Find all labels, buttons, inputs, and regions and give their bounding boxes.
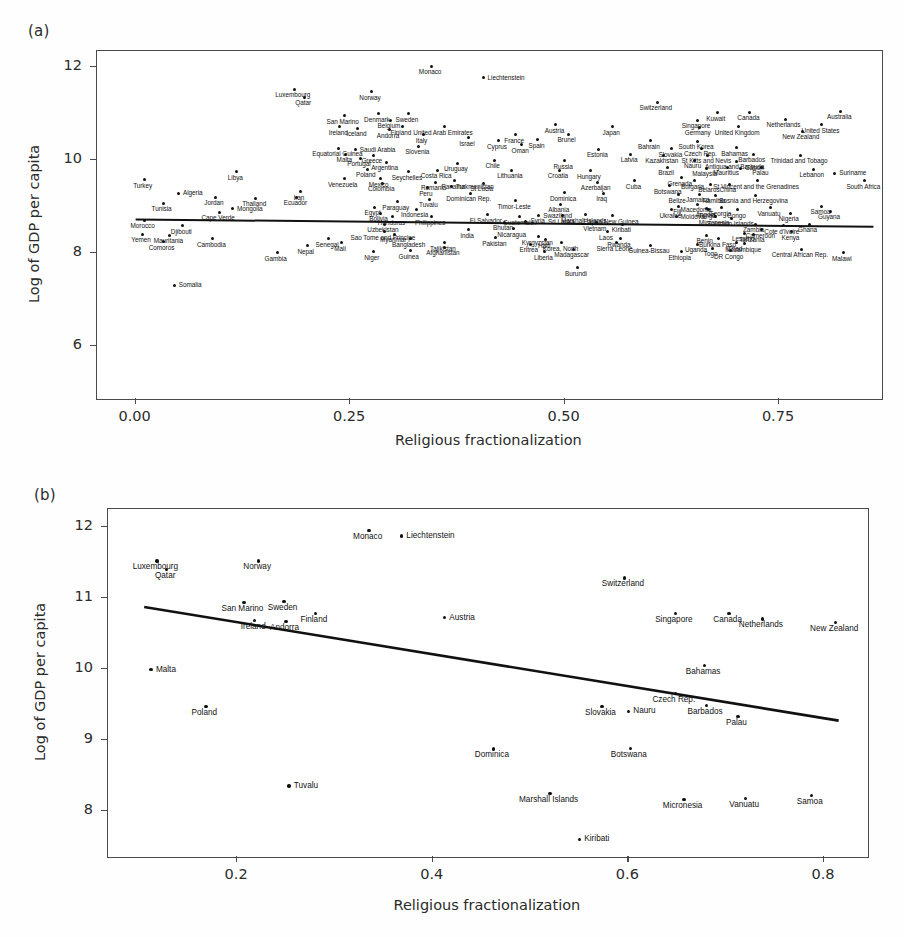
data-point-label: Japan xyxy=(603,129,620,135)
data-point-label: New Zealand xyxy=(810,625,858,633)
data-point-label: Spain xyxy=(528,142,544,148)
y-tick-mark xyxy=(101,597,107,598)
data-point-label: India xyxy=(460,232,474,238)
x-tick-label: 0.4 xyxy=(402,866,462,882)
x-tick-label: 0.2 xyxy=(206,866,266,882)
data-point-label: Iceland xyxy=(346,131,366,137)
data-point-label: Algeria xyxy=(183,190,203,196)
data-point-label: Bangladesh xyxy=(392,242,425,248)
panel-a-x-axis-title: Religious fractionalization xyxy=(395,432,582,448)
data-point-label: Austria xyxy=(449,614,474,622)
data-point-label: Nicaragua xyxy=(497,232,526,238)
panel-b-plot-area: MonacoLiechtensteinLuxembourgQatarNorway… xyxy=(107,508,869,858)
data-point xyxy=(287,784,290,787)
data-point-label: Ghana xyxy=(798,227,817,233)
data-point-label: Micronesia xyxy=(663,802,703,810)
data-point-label: Brunel xyxy=(557,137,575,143)
data-point-label: Colombia xyxy=(368,186,395,192)
data-point-label: Austria xyxy=(545,128,565,134)
data-point-label: Slovakia xyxy=(585,709,616,717)
data-point-label: Norway xyxy=(243,563,271,571)
data-point-label: Botswana xyxy=(611,751,647,759)
y-tick-label: 9 xyxy=(45,730,93,746)
data-point-label: Norway xyxy=(359,95,380,101)
data-point-label: Syria xyxy=(530,218,544,224)
data-point-label: Turkmenistan xyxy=(456,184,494,190)
data-point-label: Andorra xyxy=(270,624,299,632)
data-point-label: Australia xyxy=(827,114,851,120)
x-tick-mark xyxy=(432,856,433,862)
data-point-label: Ireland xyxy=(241,623,266,631)
data-point xyxy=(578,838,581,841)
data-point-label: DR Congo xyxy=(714,253,743,259)
y-tick-label: 10 xyxy=(45,659,93,675)
data-point-label: Samoa xyxy=(797,798,823,806)
data-point-label: Belize xyxy=(669,198,686,204)
data-point-label: Comoros xyxy=(149,245,175,251)
data-point-label: Cyprus xyxy=(487,143,507,149)
data-point-label: Nauru xyxy=(684,163,701,169)
regression-fit-line xyxy=(97,51,882,399)
data-point-label: Andorra xyxy=(377,133,399,139)
data-point-label: Vanuatu xyxy=(729,801,759,809)
y-tick-mark xyxy=(90,345,96,346)
data-point-label: Suriname xyxy=(839,170,866,176)
data-point-label: Estonia xyxy=(587,152,608,158)
data-point-label: Ireland xyxy=(329,129,348,135)
data-point-label: Vietnam xyxy=(583,225,606,231)
data-point-label: Turkey xyxy=(133,182,152,188)
x-tick-mark xyxy=(236,856,237,862)
data-point-label: Costa Rica xyxy=(421,173,452,179)
data-point-label: Monaco xyxy=(353,533,382,541)
data-point-label: St Vincent and the Grenadines xyxy=(713,184,798,190)
data-point-label: Swaziland xyxy=(543,213,572,219)
data-point-label: Palau xyxy=(726,719,747,727)
data-point-label: New Zealand xyxy=(782,134,819,140)
x-tick-mark xyxy=(349,398,350,404)
data-point-label: Netherlands xyxy=(767,122,801,128)
data-point-label: Latvia xyxy=(621,157,638,163)
data-point-label: San Marino xyxy=(326,119,358,125)
data-point-label: Kenya xyxy=(781,235,799,241)
data-point-label: Nepal xyxy=(297,249,313,255)
data-point-label: Cuba xyxy=(626,184,641,190)
data-point-label: Kazakhstan xyxy=(645,158,678,164)
y-tick-label: 12 xyxy=(45,517,93,533)
x-tick-mark xyxy=(778,398,779,404)
data-point-label: Kiribati xyxy=(612,227,631,233)
data-point-label: Guyana xyxy=(818,214,840,220)
data-point-label: Liechtenstein xyxy=(406,532,454,540)
panel-a-plot-area: MonacoLiechtensteinLuxembourgQatarNorway… xyxy=(96,50,883,400)
panel-a-y-axis-title: Log of GDP per capita xyxy=(26,145,42,303)
data-point-label: Finland xyxy=(300,616,327,624)
data-point-label: Qatar xyxy=(295,100,311,106)
data-point-label: Sri Lanka xyxy=(548,219,575,225)
data-point-label: Tuvalu xyxy=(419,202,438,208)
y-tick-label: 11 xyxy=(45,588,93,604)
data-point xyxy=(173,284,176,287)
data-point-label: Canada xyxy=(737,115,759,121)
data-point-label: Nauru xyxy=(633,707,655,715)
data-point-label: Venezuela xyxy=(328,181,357,187)
data-point-label: Ethiopia xyxy=(668,255,691,261)
data-point-label: Dominican Rep. xyxy=(446,196,491,202)
data-point-label: Bahrain xyxy=(638,143,660,149)
data-point-label: Tunisia xyxy=(152,206,172,212)
y-tick-mark xyxy=(90,159,96,160)
y-tick-label: 8 xyxy=(45,801,93,817)
data-point-label: Barbados xyxy=(688,708,723,716)
data-point-label: Vanuatu xyxy=(757,211,780,217)
data-point-label: Russia xyxy=(553,164,572,170)
x-tick-mark xyxy=(823,856,824,862)
y-tick-mark xyxy=(90,66,96,67)
x-tick-label: 0.25 xyxy=(319,408,379,424)
data-point-label: Sweden xyxy=(268,604,298,612)
data-point-label: Switzerland xyxy=(602,580,644,588)
data-point-label: Dominica xyxy=(475,751,509,759)
data-point xyxy=(833,172,836,175)
data-point-label: Seychelles xyxy=(392,174,422,180)
data-point-label: Singapore xyxy=(655,616,692,624)
panel-a-tag: (a) xyxy=(28,22,50,40)
data-point-label: Italy xyxy=(416,137,427,143)
y-tick-mark xyxy=(101,739,107,740)
